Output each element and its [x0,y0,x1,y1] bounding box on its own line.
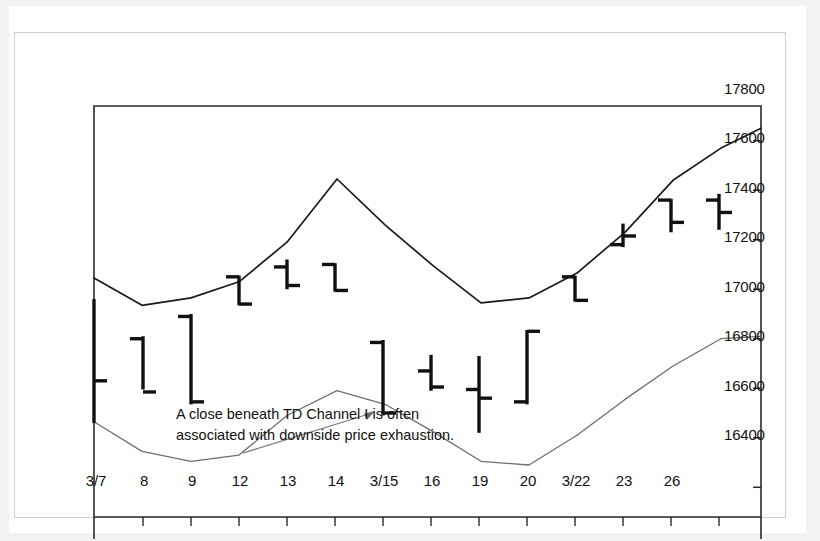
ohlc-bar [178,314,204,404]
y-axis-tick-label: 16600 [724,376,765,393]
x-axis-tick-label: 8 [140,472,148,489]
ohlc-bar [94,299,107,423]
x-axis-tick-label: 23 [616,472,632,489]
y-axis-tick-label: 17800 [724,79,765,96]
x-axis-tick-label: 16 [424,472,440,489]
y-axis-tick-label: 17200 [724,228,765,245]
x-axis-tick-label: 19 [472,472,488,489]
y-axis-tick-label: 17600 [724,129,765,146]
annotation-line-1: A close beneath TD Channel I is often [176,404,506,425]
y-axis-tick-label: 16400 [724,426,765,443]
scan-edge-left [0,0,9,541]
x-axis-tick-label: 26 [664,472,680,489]
x-axis-tick-label: 14 [328,472,344,489]
ohlc-bar [706,194,732,230]
ohlc-bar [514,330,540,404]
scan-edge-top [0,0,820,6]
ohlc-bar [274,260,300,290]
ohlc-bar [418,355,444,391]
chart-canvas [47,53,819,539]
x-axis-tick-label: 3/22 [562,472,590,489]
upper-channel-line [94,128,761,305]
annotation-line-2: associated with downside price exhaustio… [176,425,506,446]
ohlc-bar [226,276,252,306]
ohlc-bar [130,336,156,392]
price-bars [94,194,732,433]
y-axis-tick-label: 16800 [724,327,765,344]
y-axis-tick-label: 17400 [724,178,765,195]
ohlc-bar [610,224,636,248]
y-axis-tick-label: 17000 [724,277,765,294]
annotation-text: A close beneath TD Channel I is often as… [176,404,506,446]
x-axis-tick-label: 3/15 [370,472,398,489]
x-axis-tick-label: 13 [280,472,296,489]
x-axis-tick-label: 20 [520,472,536,489]
x-ticks [143,517,719,526]
chart-page: 1780017600174001720017000168001660016400… [0,0,820,541]
ohlc-bar [658,199,684,232]
x-axis-tick-label: 9 [188,472,196,489]
ohlc-bar [322,263,348,291]
x-axis-tick-label: 12 [232,472,248,489]
x-axis-tick-label: 3/7 [86,472,106,489]
